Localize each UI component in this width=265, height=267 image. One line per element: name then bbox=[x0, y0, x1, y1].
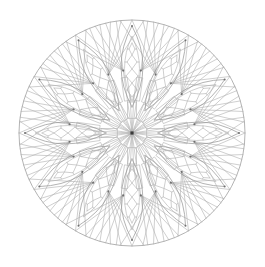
mandala-image bbox=[0, 0, 265, 267]
page bbox=[0, 0, 265, 267]
mandala-drawing bbox=[0, 0, 265, 267]
